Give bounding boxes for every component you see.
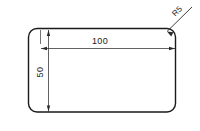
height-arrow-bottom-icon <box>47 106 50 112</box>
radius-leader-arrow-icon <box>167 32 173 37</box>
drawing-svg: 100 50 R5 <box>0 0 200 131</box>
height-dimension-label: 50 <box>35 67 45 78</box>
width-arrow-left-icon <box>41 47 47 50</box>
technical-drawing-canvas: 100 50 R5 <box>0 0 200 131</box>
height-arrow-top-icon <box>47 30 50 36</box>
width-arrow-right-icon <box>169 47 175 50</box>
width-dimension-label: 100 <box>92 36 108 46</box>
